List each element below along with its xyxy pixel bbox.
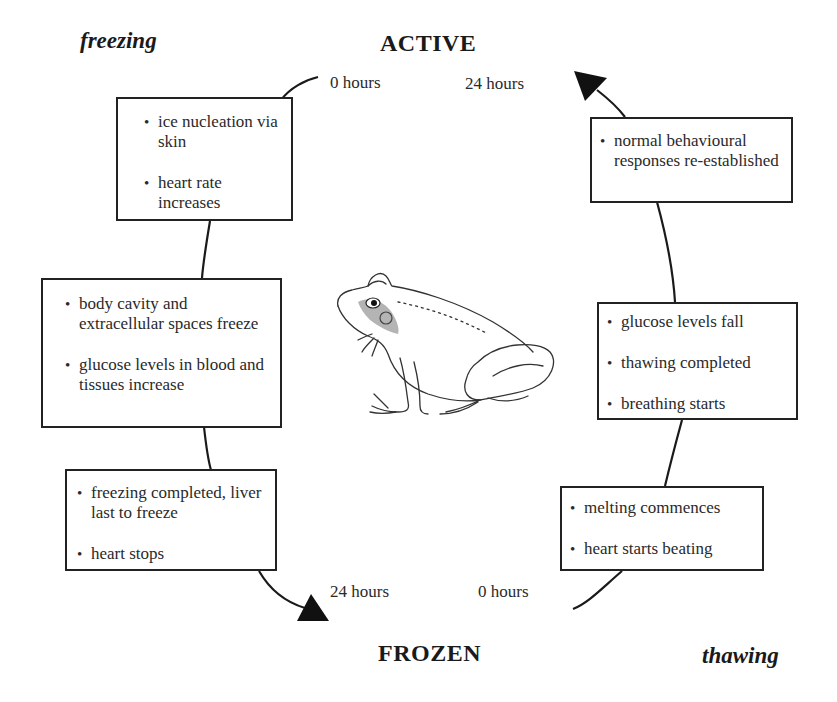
freezing-step-3: freezing completed, liver last to freeze… — [65, 469, 277, 571]
frog-illustration — [328, 262, 558, 422]
thawing-step-3: normal behavioural responses re-establis… — [590, 117, 793, 203]
freezing-step-2: body cavity and extracellular spaces fre… — [41, 278, 282, 428]
thawing-step-2: glucose levels fall thawing completed br… — [597, 302, 798, 420]
time-label-thaw-end: 24 hours — [465, 74, 524, 94]
freezing-step-2-item: body cavity and extracellular spaces fre… — [65, 294, 272, 334]
phase-label-thawing: thawing — [702, 643, 779, 669]
state-label-active: ACTIVE — [380, 30, 476, 57]
thawing-step-2-item: breathing starts — [607, 394, 790, 414]
thawing-step-1-item: melting commences — [570, 498, 756, 518]
freezing-step-1-item: ice nucleation via skin — [144, 112, 281, 152]
thawing-step-1-item: heart starts beating — [570, 539, 756, 559]
freezing-step-1-item: heart rate increases — [144, 173, 281, 213]
thawing-step-2-item: glucose levels fall — [607, 312, 790, 332]
thawing-step-3-item: normal behavioural responses re-establis… — [600, 131, 785, 171]
phase-label-freezing: freezing — [80, 28, 157, 54]
freezing-step-3-item: freezing completed, liver last to freeze — [77, 483, 267, 523]
time-label-freeze-end: 24 hours — [330, 582, 389, 602]
freezing-step-1: ice nucleation via skin heart rate incre… — [116, 97, 293, 221]
thawing-step-1: melting commences heart starts beating — [560, 486, 764, 571]
time-label-freeze-start: 0 hours — [330, 73, 381, 93]
freezing-step-3-item: heart stops — [77, 544, 267, 564]
arrowhead-active — [574, 71, 607, 101]
freezing-step-2-item: glucose levels in blood and tissues incr… — [65, 355, 272, 395]
thawing-step-2-item: thawing completed — [607, 353, 790, 373]
time-label-thaw-start: 0 hours — [478, 582, 529, 602]
state-label-frozen: FROZEN — [378, 640, 481, 667]
